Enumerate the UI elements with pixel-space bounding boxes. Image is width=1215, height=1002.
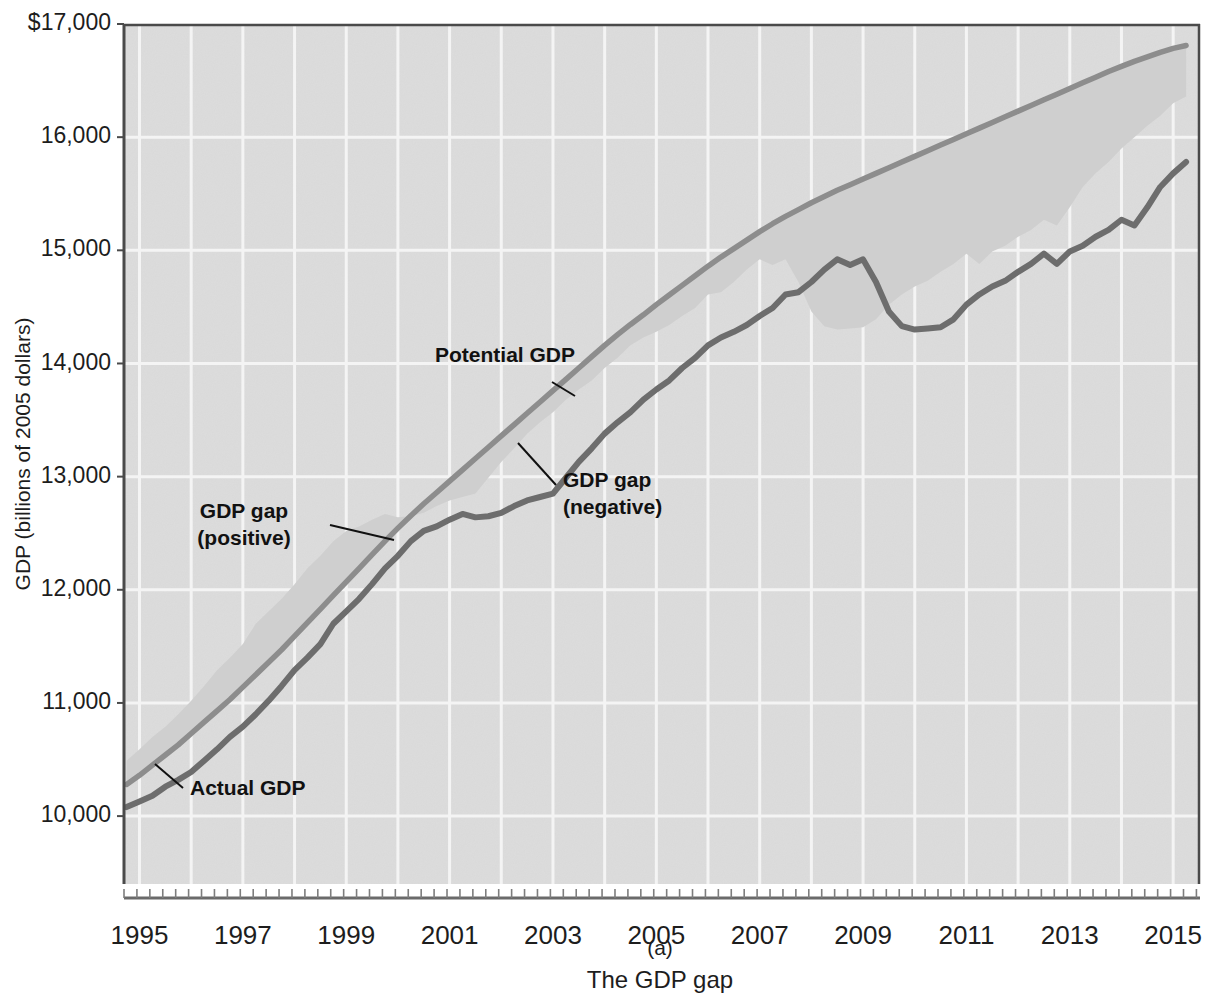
y-tick-label: 11,000 (42, 688, 111, 714)
y-tick-label: 13,000 (41, 462, 111, 488)
x-tick-label: 1999 (317, 920, 375, 950)
gdp-gap-figure: 10,00011,00012,00013,00014,00015,00016,0… (0, 0, 1215, 1002)
x-tick-label: 2001 (421, 920, 479, 950)
x-tick-label: 2015 (1144, 920, 1202, 950)
y-axis-tick-labels: 10,00011,00012,00013,00014,00015,00016,0… (28, 9, 111, 827)
gap-positive-label-line1: GDP gap (200, 499, 288, 522)
x-tick-label: 2011 (938, 920, 994, 950)
x-tick-label: 2003 (524, 920, 582, 950)
gap-negative-label-line2: (negative) (563, 495, 662, 518)
actual-gdp-label: Actual GDP (190, 776, 306, 799)
figure-caption-text: The GDP gap (587, 966, 733, 993)
x-tick-label: 2009 (834, 920, 892, 950)
gdp-gap-chart: 10,00011,00012,00013,00014,00015,00016,0… (0, 0, 1215, 1002)
y-tick-label: $17,000 (28, 9, 111, 35)
x-tick-label: 1995 (111, 920, 169, 950)
y-tick-label: 14,000 (41, 349, 111, 375)
figure-caption-letter: (a) (647, 936, 673, 959)
x-tick-label: 2007 (731, 920, 789, 950)
potential-gdp-label: Potential GDP (435, 343, 575, 366)
gap-positive-label-line2: (positive) (197, 526, 290, 549)
y-tick-label: 10,000 (41, 801, 111, 827)
x-tick-label: 1997 (214, 920, 272, 950)
y-tick-label: 15,000 (41, 235, 111, 261)
gap-negative-label-line1: GDP gap (563, 468, 651, 491)
y-axis-title: GDP (billions of 2005 dollars) (11, 318, 34, 591)
y-tick-label: 16,000 (41, 122, 111, 148)
x-tick-label: 2013 (1041, 920, 1099, 950)
y-tick-label: 12,000 (41, 575, 111, 601)
